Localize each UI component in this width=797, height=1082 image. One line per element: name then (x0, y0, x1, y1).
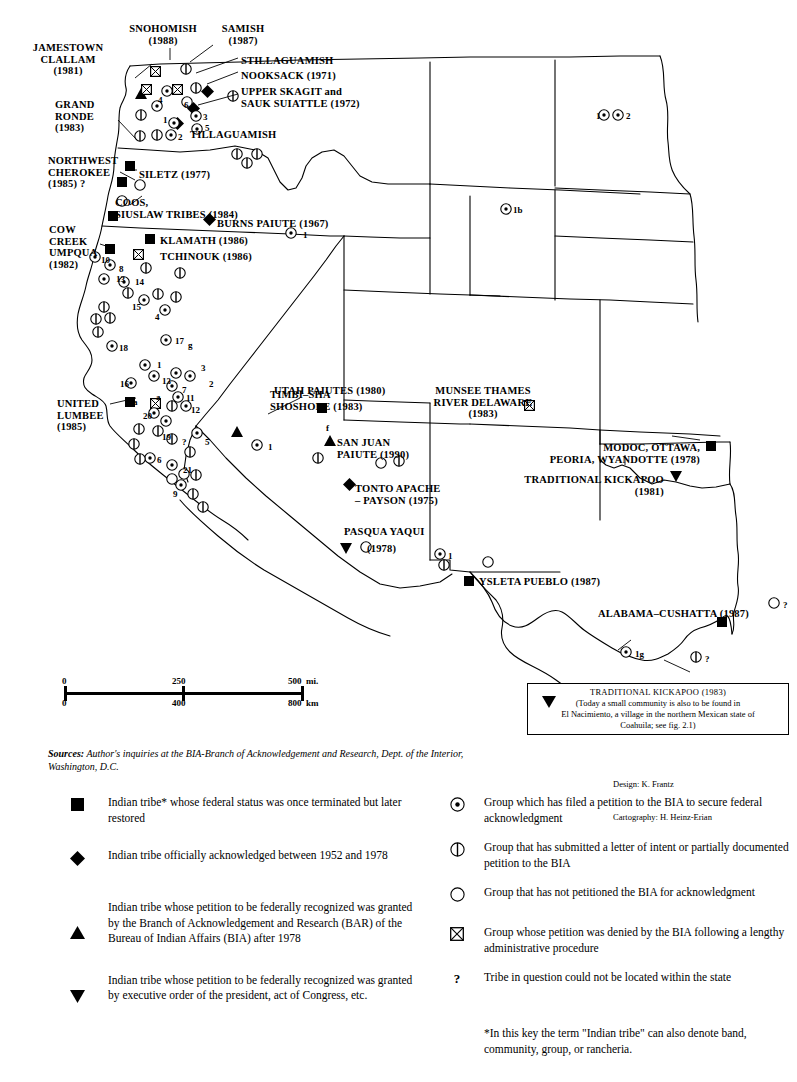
key-text-bar-granted: Indian tribe whose petition to be federa… (108, 900, 420, 947)
map-number-n-q2: ? (705, 655, 710, 664)
ne-sd-line (470, 295, 500, 296)
key-column-left: Indian tribe* whose federal status was o… (60, 795, 420, 1018)
circle-half-icon (152, 286, 164, 304)
map-label-upper-skagit-sauk-suiattle: UPPER SKAGIT and SAUK SUIATTLE (1972) (241, 86, 360, 109)
map-number-n-6b: 6 (157, 456, 162, 465)
map-number-n-2-nd: 2 (626, 112, 631, 121)
nm-mexico-border (196, 426, 452, 588)
map-number-n-21: 21 (183, 466, 192, 475)
map-label-munsee-thames: MUNSEE THAMES RIVER DELAWARE (1983) (373, 385, 593, 420)
map-label-ysleta-pueblo: YSLETA PUEBLO (1987) (479, 576, 600, 588)
key-column-right: Group which has filed a petition to the … (440, 795, 790, 1057)
circle-open-icon (768, 595, 780, 613)
sources-text: Author's inquiries at the BIA-Branch of … (48, 748, 463, 772)
filled-square-icon (464, 572, 474, 590)
filled-triangle-down-icon (60, 990, 94, 1003)
map-number-n-1c: 1 (157, 361, 162, 370)
map-number-n-17: 17 (175, 337, 184, 346)
circle-half-icon (140, 260, 152, 278)
map-number-n-q1: ? (182, 438, 187, 447)
filled-square-icon (706, 437, 716, 455)
map-number-n-20: 20 (143, 412, 152, 421)
map-label-united-lumbee: UNITED LUMBEE (1985) (57, 398, 104, 433)
filled-triangle-up-icon (324, 432, 336, 450)
map-number-n-5: 5 (205, 124, 210, 133)
map-number-n-1b: 1b (513, 206, 523, 215)
square-x-icon (141, 81, 152, 99)
co-ne-border (470, 295, 693, 304)
key-item-acknowledged-1952-1978: Indian tribe officially acknowledged bet… (60, 848, 420, 874)
wa-or-border (118, 146, 430, 190)
key-item-bar-granted: Indian tribe whose petition to be federa… (60, 900, 420, 947)
map-label-jamestown-clallam: JAMESTOWN CLALLAM (1981) (0, 42, 178, 77)
ut-wy-border (344, 290, 470, 295)
circle-half-icon (135, 107, 147, 125)
map-number-n-12: 12 (191, 406, 200, 415)
circle-dot-icon (184, 368, 196, 386)
key-text-executive-order: Indian tribe whose petition to be federa… (108, 973, 420, 1004)
map-label-coos-siuslaw: COOS, SIUSLAW TRIBES (1984) (115, 197, 238, 220)
circle-half-icon (241, 155, 253, 173)
map-number-n-1e: 1 (448, 552, 453, 561)
map-label-stillaguamish: STILLAGUAMISH (241, 55, 333, 67)
map-number-n-14: 14 (135, 278, 144, 287)
traditional-kickapoo-note-box: TRADITIONAL KICKAPOO (1983) (Today a sma… (527, 683, 789, 735)
key-item-terminated-restored: Indian tribe* whose federal status was o… (60, 795, 420, 826)
map-label-tonto-apache-payson: TONTO APACHE – PAYSON (1975) (355, 483, 441, 506)
map-label-traditional-kickapoo: TRADITIONAL KICKAPOO (1981) (444, 474, 664, 497)
map-label-modoc-ottawa-peoria-wyandotte: MODOC, OTTAWA, PEORIA, WYANDOTTE (1978) (480, 442, 700, 465)
filled-diamond-icon (201, 84, 214, 102)
map-number-n-18: 18 (119, 344, 128, 353)
triangle-down-icon (542, 694, 556, 712)
circle-half-icon (151, 127, 163, 145)
key-text-acknowledged-1952-1978: Indian tribe officially acknowledged bet… (108, 848, 420, 864)
map-number-n-8: 8 (119, 265, 124, 274)
map-number-n-1-nd: 1 (596, 112, 601, 121)
circle-half-icon (174, 265, 186, 283)
question-mark-icon: ? (440, 971, 474, 987)
circle-dot-icon (612, 107, 624, 125)
map-number-n-f: f (326, 424, 329, 433)
map-number-n-13: 13 (116, 275, 125, 284)
scale-km-0: 0 (62, 698, 67, 708)
map-label-alabama-cushatta: ALABAMA–CUSHATTA (1987) (598, 608, 749, 620)
map-label-utah-paiutes: UTAH PAIUTES (1980) (274, 385, 385, 397)
circle-half-icon (92, 324, 104, 342)
kickapoo-note-line1: TRADITIONAL KICKAPOO (1983) (528, 687, 788, 698)
scale-mi-500: 500 mi. (288, 676, 318, 686)
map-label-tchinouk: TCHINOUK (1986) (160, 251, 252, 263)
map-number-n-g: g (188, 341, 193, 350)
map-number-n-a1: a (133, 398, 138, 407)
map-number-n-1g: 1g (635, 650, 644, 659)
ok-east-vert (729, 442, 730, 484)
map-label-klamath: KLAMATH (1986) (160, 235, 248, 247)
map-number-n-2b: 2 (209, 380, 214, 389)
kickapoo-note-line4: Coahuila; see fig. 2.1) (528, 720, 788, 731)
id-nv-ut-junction (344, 184, 430, 238)
map-label-nooksack: NOOKSACK (1971) (241, 70, 336, 82)
scale-km-400: 400 (172, 698, 186, 708)
circle-half-icon (690, 649, 702, 667)
circle-half-icon (134, 128, 146, 146)
filled-square-icon (117, 173, 127, 191)
key-text-petition-denied: Group whose petition was denied by the B… (484, 925, 790, 956)
key-text-not-petitioned: Group that has not petitioned the BIA fo… (484, 885, 790, 901)
circle-dot-icon (106, 338, 118, 356)
id-wy-border (430, 184, 640, 194)
circle-dot-icon (160, 332, 172, 350)
scale-km-800: 800 km (288, 698, 319, 708)
key-item-executive-order: Indian tribe whose petition to be federa… (60, 973, 420, 1004)
circle-half-icon (440, 842, 474, 857)
map-number-n-9: 9 (173, 490, 178, 499)
map-number-n-10: 10 (101, 256, 110, 265)
map-key: Indian tribe* whose federal status was o… (0, 795, 797, 1082)
ne-border-lines (555, 236, 693, 242)
filled-triangle-up-icon (60, 926, 94, 939)
rio-grande (470, 572, 610, 701)
map-number-n-3b: 3 (201, 364, 206, 373)
map-label-northwest-cherokee: NORTHWEST CHEROKEE (1985) ? (48, 155, 118, 190)
key-text-letter-of-intent: Group that has submitted a letter of int… (484, 840, 790, 871)
map-label-grand-ronde: GRAND RONDE (1983) (55, 99, 95, 134)
scale-mi-250: 250 (172, 676, 186, 686)
circle-open-icon (440, 887, 474, 902)
